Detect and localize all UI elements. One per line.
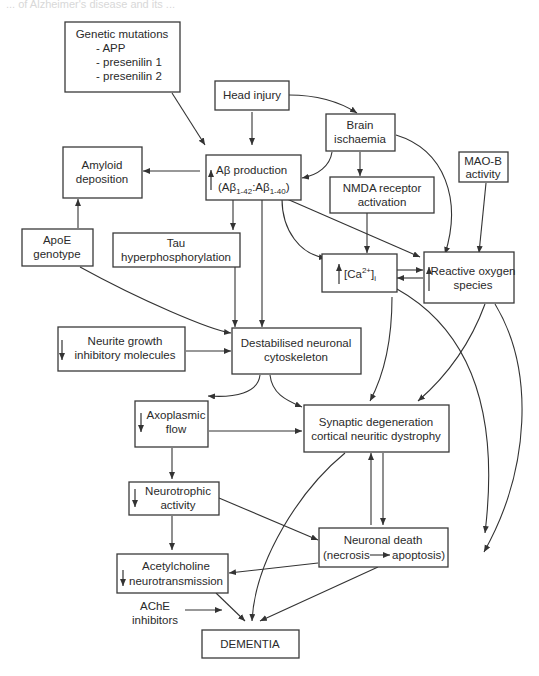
node-label: species [454, 279, 493, 291]
node-ache-inhibitors: AChE inhibitors [132, 600, 178, 626]
edge-ros-to-neuronal-death [484, 304, 522, 552]
node-genetic-mutations: Genetic mutations - APP - presenilin 1 -… [65, 22, 180, 92]
edge-ros-to-synaptic [418, 304, 485, 401]
node-maob-activity: MAO-B activity [459, 152, 508, 182]
node-neurite-growth-inhibitory: Neurite growth inhibitory molecules [58, 327, 185, 371]
node-label: - presenilin 1 [96, 56, 162, 68]
node-label: Synaptic degeneration [319, 416, 433, 428]
node-label: ischaemia [334, 133, 386, 145]
node-label: deposition [76, 173, 128, 185]
node-label: flow [166, 423, 187, 435]
node-label: Neuronal death [344, 534, 423, 546]
node-label: activity [465, 168, 500, 180]
node-label: cytoskeleton [264, 351, 328, 363]
node-label: genotype [33, 248, 80, 260]
node-label: Destabilised neuronal [241, 337, 352, 349]
node-intracellular-calcium: [Ca2+]i [322, 254, 397, 292]
node-label: Neurotrophic [145, 485, 211, 497]
pathogenesis-diagram: ... of Alzheimer's disease and its ... [0, 0, 539, 676]
edge-acetylcholine-to-dementia [216, 593, 245, 621]
node-destabilised-cytoskeleton: Destabilised neuronal cytoskeleton [232, 328, 361, 374]
node-label: Tau [167, 237, 186, 249]
node-acetylcholine-neurotransmission: Acetylcholine neurotransmission [117, 554, 228, 593]
node-label: Neurite growth [88, 335, 163, 347]
header-fragment: ... of Alzheimer's disease and its ... [6, 0, 175, 10]
node-synaptic-degeneration: Synaptic degeneration cortical neuritic … [304, 405, 449, 452]
node-label: (necrosis [323, 549, 370, 561]
edge-calcium-to-synaptic [370, 297, 392, 401]
node-label: Brain [347, 119, 374, 131]
node-box [424, 252, 514, 303]
node-label: apoptosis) [392, 549, 445, 561]
edge-neuronal-death-to-dementia [260, 567, 378, 621]
node-label: Reactive oxygen [430, 265, 515, 277]
node-label: Acetylcholine [142, 560, 210, 572]
node-label: activation [358, 196, 407, 208]
edge-maob-to-ros [479, 183, 486, 253]
node-label: neurotransmission [129, 575, 223, 587]
node-label: Axoplasmic [147, 409, 206, 421]
edge-neurotrophic-to-neuronal-death [219, 498, 318, 540]
edge-genetic-to-abeta [172, 93, 205, 145]
node-label: inhibitors [132, 614, 178, 626]
edge-headinjury-to-ischaemia [289, 95, 357, 113]
node-label: NMDA receptor [343, 182, 422, 194]
node-label: DEMENTIA [220, 638, 280, 650]
node-label: hyperphosphorylation [121, 251, 231, 263]
node-label: AChE [140, 600, 170, 612]
node-label: Genetic mutations [76, 28, 169, 40]
node-box [206, 155, 301, 200]
node-reactive-oxygen-species: Reactive oxygen species [424, 252, 516, 303]
node-axoplasmic-flow: Axoplasmic flow [135, 401, 208, 447]
node-tau-hyperphosphorylation: Tau hyperphosphorylation [113, 233, 240, 267]
node-label: - presenilin 2 [96, 70, 162, 82]
node-neurotrophic-activity: Neurotrophic activity [129, 482, 219, 515]
node-amyloid-deposition: Amyloid deposition [63, 147, 142, 198]
node-label: cortical neuritic dystrophy [311, 430, 441, 442]
node-label: activity [160, 499, 195, 511]
node-nmda-activation: NMDA receptor activation [330, 177, 434, 213]
node-box [304, 405, 449, 452]
node-label: Aβ production [216, 164, 287, 176]
node-abeta-production: Aβ production (Aβ1-42:Aβ1-40) [206, 155, 301, 200]
node-dementia: DEMENTIA [202, 630, 299, 658]
node-neuronal-death: Neuronal death (necrosis apoptosis) [319, 528, 448, 567]
edge-cytoskeleton-to-synaptic [270, 375, 302, 407]
node-label: - APP [96, 42, 126, 54]
edge-neuronal-death-to-acetylcholine [229, 563, 318, 573]
node-label: Amyloid [82, 159, 123, 171]
edge-apoe-to-cytoskeleton [80, 267, 231, 333]
node-brain-ischaemia: Brain ischaemia [326, 114, 395, 151]
node-head-injury: Head injury [215, 81, 289, 110]
edge-ischaemia-to-abeta [302, 152, 332, 178]
node-apoe-genotype: ApoE genotype [22, 229, 93, 266]
node-label: inhibitory molecules [75, 349, 176, 361]
edge-cytoskeleton-to-axoplasmic [208, 375, 260, 396]
node-label: MAO-B [464, 155, 502, 167]
node-label: Head injury [223, 89, 281, 101]
edge-abeta-to-calcium [282, 199, 326, 258]
node-label: ApoE [43, 234, 71, 246]
